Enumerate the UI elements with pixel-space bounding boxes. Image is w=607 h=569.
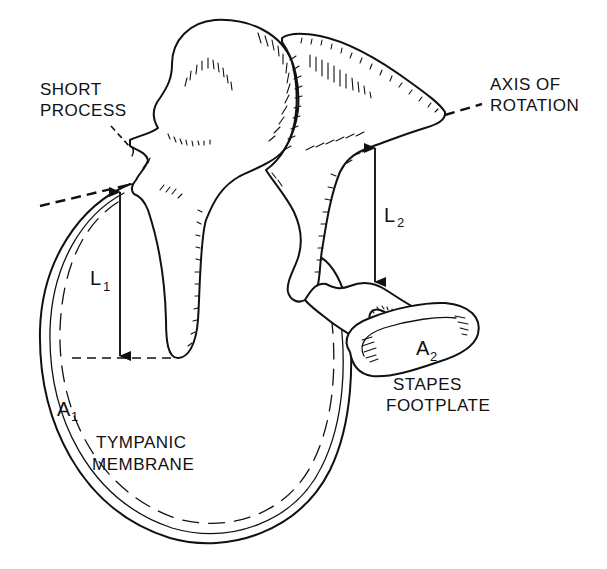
l2-sub: 2	[397, 215, 404, 230]
a2-sub: 2	[430, 349, 437, 364]
tympanic-membrane-label-line2: MEMBRANE	[92, 455, 194, 474]
symbol-l2: L 2	[384, 204, 404, 230]
ossicle-diagram: SHORT PROCESS AXIS OF ROTATION TYMPANIC …	[0, 0, 607, 569]
stapes-footplate-label-line2: FOOTPLATE	[386, 396, 490, 415]
a2-base: A	[416, 337, 430, 359]
short-process-label-line2: PROCESS	[40, 101, 127, 120]
symbol-a1: A 1	[57, 398, 78, 424]
malleus	[130, 20, 297, 358]
l1-base: L	[90, 267, 101, 289]
stapes	[305, 283, 479, 376]
a1-sub: 1	[71, 409, 78, 424]
stapes-footplate-label-line1: STAPES	[393, 375, 462, 394]
symbol-l1: L 1	[90, 267, 110, 294]
short-process-leader	[111, 126, 129, 146]
l2-base: L	[384, 204, 395, 226]
short-process-label-line1: SHORT	[40, 80, 102, 99]
diagram-canvas: SHORT PROCESS AXIS OF ROTATION TYMPANIC …	[0, 0, 607, 569]
l1-sub: 1	[103, 279, 110, 294]
axis-of-rotation-label-line1: AXIS OF	[490, 75, 561, 94]
a1-base: A	[57, 398, 71, 420]
tympanic-membrane-label-line1: TYMPANIC	[96, 433, 187, 452]
axis-of-rotation-label-line2: ROTATION	[490, 96, 579, 115]
